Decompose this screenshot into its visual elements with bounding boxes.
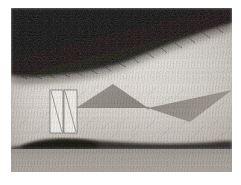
paper-marker-right [64,90,77,133]
ground-texture [11,149,232,172]
paper-marker-left [50,90,63,133]
figure-frame [0,0,241,185]
bowtie-junction [146,106,149,109]
photo-rendering [11,8,232,172]
photograph [11,8,232,172]
